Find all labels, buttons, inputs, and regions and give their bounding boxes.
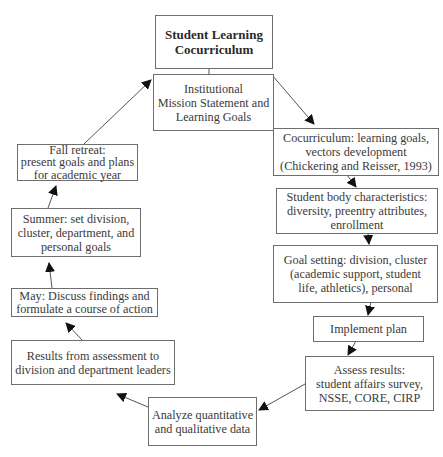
node-cocurriculum-learning-goals: Cocurriculum: learning goals, vectors de…	[273, 128, 439, 176]
arrow-mission-to-cocurriculum	[272, 75, 314, 124]
node-implement-plan: Implement plan	[313, 316, 424, 342]
arrow-assess-to-analyze	[259, 384, 305, 410]
node-label: Assess results: student affairs survey, …	[316, 363, 423, 405]
node-student-body-characteristics: Student body characteristics: diversity,…	[276, 188, 438, 234]
node-label: Institutional Mission Statement and Lear…	[158, 82, 270, 124]
arrow-student-body-to-goal-setting	[368, 233, 369, 244]
node-analyze-data: Analyze quantitative and qualitative dat…	[148, 397, 257, 446]
arrow-implement-to-assess	[348, 341, 356, 355]
node-goal-setting: Goal setting: division, cluster (academi…	[273, 245, 438, 303]
arrow-summer-to-fall	[48, 186, 56, 208]
node-label: Summer: set division, cluster, departmen…	[18, 212, 135, 254]
node-may-discuss-findings: May: Discuss findings and formulate a co…	[11, 288, 158, 317]
node-assess-results: Assess results: student affairs survey, …	[305, 356, 434, 411]
node-label: Cocurriculum: learning goals, vectors de…	[280, 131, 432, 173]
node-results-from-assessment: Results from assessment to division and …	[11, 340, 175, 385]
node-summer-set-goals: Summer: set division, cluster, departmen…	[11, 208, 141, 257]
arrow-may-to-summer	[49, 263, 52, 288]
node-label: Results from assessment to division and …	[15, 349, 170, 377]
arrow-goal-setting-to-implement	[368, 302, 371, 315]
node-student-learning-cocurriculum: Student Learning Cocurriculum	[155, 15, 273, 69]
arrow-analyze-to-results	[117, 394, 148, 407]
arrow-results-to-may	[66, 323, 82, 340]
node-institutional-mission: Institutional Mission Statement and Lear…	[153, 74, 274, 131]
node-label: Goal setting: division, cluster (academi…	[284, 253, 428, 295]
arrow-cocurriculum-to-student-body	[347, 175, 356, 187]
node-fall-retreat: Fall retreat: present goals and plans fo…	[17, 144, 138, 181]
arrow-fall-to-mission	[84, 80, 151, 144]
node-label: May: Discuss findings and formulate a co…	[16, 290, 153, 316]
node-label: Analyze quantitative and qualitative dat…	[152, 408, 253, 436]
node-label: Student body characteristics: diversity,…	[287, 190, 428, 232]
node-label: Student Learning Cocurriculum	[165, 27, 263, 57]
node-label: Fall retreat: present goals and plans fo…	[21, 144, 134, 182]
node-label: Implement plan	[330, 322, 407, 336]
